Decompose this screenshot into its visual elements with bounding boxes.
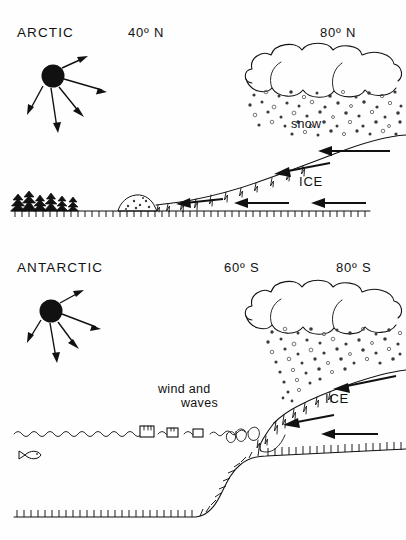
arctic-flow-arrow-1 <box>318 146 390 156</box>
antarctic-ice-surface <box>226 370 406 452</box>
arctic-moraine <box>118 195 157 211</box>
antarctic-flow-arrow-2 <box>283 415 334 428</box>
conifer-tree-icon <box>56 196 68 211</box>
antarctic-sun-ray-5 <box>27 320 41 343</box>
antarctic-waves-label: waves <box>180 396 218 410</box>
antarctic-sun-icon <box>27 290 101 363</box>
arctic-flow-arrow-4 <box>234 198 289 208</box>
arctic-bedrock-hatching <box>15 211 365 217</box>
antarctic-latitude-right-label: 80º S <box>336 260 372 275</box>
antarctic-flow-arrow-1 <box>333 376 396 393</box>
arctic-latitude-right-label: 80º N <box>320 25 356 40</box>
arctic-sun-ray-1 <box>62 56 88 68</box>
fish-icon <box>19 451 41 459</box>
antarctic-cloud-icon <box>245 280 401 334</box>
antarctic-region-label: ANTARCTIC <box>17 260 103 275</box>
conifer-tree-icon <box>44 193 58 211</box>
antarctic-flow-arrows <box>283 376 396 439</box>
diagram-canvas: ARCTIC 40º N 80º N <box>0 0 406 540</box>
arctic-cloud-icon <box>245 43 401 97</box>
antarctic-ice-label: ICE <box>325 391 349 406</box>
conifer-tree-icon <box>68 197 79 211</box>
antarctic-icebergs <box>140 426 203 437</box>
arctic-forest <box>11 191 79 211</box>
iceberg-icon <box>167 428 178 437</box>
arctic-flow-arrow-3 <box>311 198 366 208</box>
diagram-figure: ARCTIC 40º N 80º N <box>0 0 406 540</box>
arctic-flow-arrows <box>176 146 390 208</box>
conifer-tree-icon <box>22 191 37 211</box>
arctic-latitude-left-label: 40º N <box>128 25 164 40</box>
arctic-ice-label: ICE <box>299 174 323 189</box>
iceberg-icon <box>193 429 203 437</box>
antarctic-sea-surface <box>14 430 245 437</box>
antarctic-seafloor-hatching-shallow <box>268 442 401 456</box>
arctic-sun-icon <box>27 56 107 133</box>
antarctic-flow-arrow-3 <box>321 429 378 439</box>
arctic-panel: ARCTIC 40º N 80º N <box>11 25 406 217</box>
arctic-sun-ray-5 <box>27 86 43 115</box>
arctic-region-label: ARCTIC <box>17 25 74 40</box>
antarctic-seafloor-hatching-deep <box>17 510 192 517</box>
arctic-sun-ray-3 <box>59 87 84 117</box>
iceberg-icon <box>140 426 154 437</box>
antarctic-sun-ray-2 <box>62 314 101 331</box>
antarctic-latitude-left-label: 60º S <box>224 260 260 275</box>
arctic-bedrock-line <box>12 211 370 217</box>
antarctic-panel: ANTARCTIC 60º S 80º S <box>14 260 406 517</box>
antarctic-sun-ray-1 <box>60 290 84 303</box>
arctic-sun-ray-2 <box>64 79 107 95</box>
antarctic-wind-label: wind and <box>157 382 210 396</box>
arctic-snow-label: snow <box>291 117 322 131</box>
antarctic-seafloor <box>14 442 406 517</box>
antarctic-sun-ray-3 <box>58 322 79 349</box>
antarctic-sun-ray-4 <box>50 323 60 363</box>
arctic-sun-ray-4 <box>51 88 61 133</box>
